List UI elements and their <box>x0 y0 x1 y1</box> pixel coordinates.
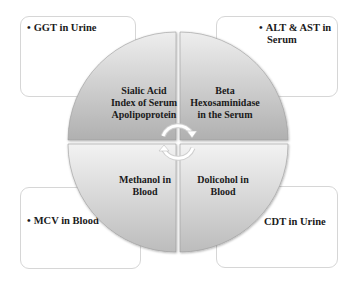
quadrant-label-dolicohol-blood: Dolicohol in Blood <box>184 174 262 198</box>
quadrant-label-methanol-blood: Methanol in Blood <box>106 174 184 198</box>
quadrant-bottom-right <box>180 144 288 252</box>
quadrant-circle <box>0 0 356 285</box>
quadrant-bottom-left <box>68 144 176 252</box>
quadrant-label-beta-hexosaminidase: Beta Hexosaminidase in the Serum <box>182 85 268 121</box>
circular-arrows-icon <box>159 126 197 159</box>
quadrant-label-sialic-acid: Sialic Acid Index of Serum Apolipoprotei… <box>102 85 186 121</box>
